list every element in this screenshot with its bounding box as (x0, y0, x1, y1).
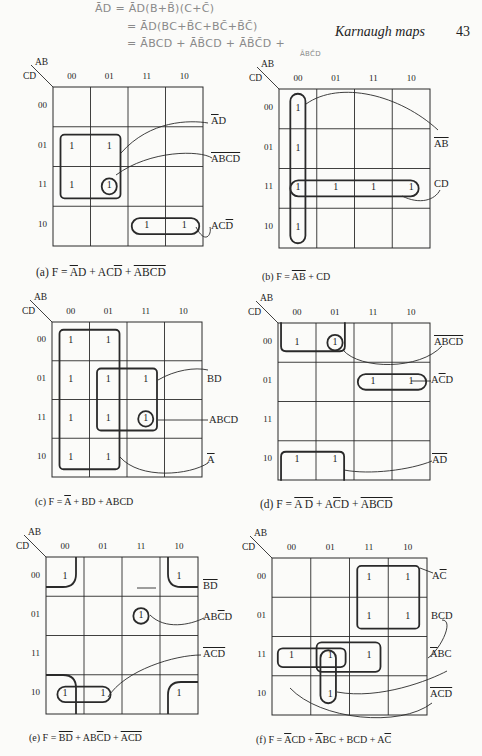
kmap-grid-f (0, 0, 482, 756)
column-header: 10 (389, 542, 427, 552)
overlined-term: C (384, 734, 391, 745)
row-variable-label: CD (242, 542, 255, 552)
term-text: (f) F = (256, 734, 284, 745)
term-text: BC + BCD + A (323, 734, 385, 745)
cell-value-1: 1 (362, 571, 376, 582)
col-variable-label: AB (254, 528, 267, 538)
overlined-term: ACD (430, 688, 452, 699)
cell-value-1: 1 (323, 649, 337, 660)
term-text: BC (438, 648, 452, 659)
column-header: 01 (311, 542, 349, 552)
row-header: 00 (246, 571, 266, 581)
term-text: A (432, 570, 440, 581)
figure-caption-f: (f) F = ACD + ABC + BCD + AC (256, 734, 391, 745)
cell-value-1: 1 (401, 571, 415, 582)
group-term-label: ACD (430, 688, 452, 699)
group-term-label: BCD (431, 610, 453, 621)
column-header: 11 (350, 542, 388, 552)
leader-line (290, 688, 432, 718)
term-text: CD + (291, 734, 315, 745)
cell-value-1: 1 (362, 610, 376, 621)
cell-value-1: 1 (362, 649, 376, 660)
term-text: BCD (431, 610, 453, 621)
cell-value-1: 1 (284, 649, 298, 660)
group-term-label: ABC (430, 648, 452, 659)
overlined-term: A (430, 648, 438, 659)
cell-value-1: 1 (401, 610, 415, 621)
cell-value-1: 1 (323, 688, 337, 699)
row-header: 01 (246, 610, 266, 620)
row-header: 10 (246, 688, 266, 698)
row-header: 11 (246, 649, 266, 659)
overlined-term: A (315, 734, 322, 745)
column-header: 00 (272, 542, 310, 552)
overlined-term: C (440, 570, 447, 581)
group-term-label: AC (432, 570, 447, 581)
